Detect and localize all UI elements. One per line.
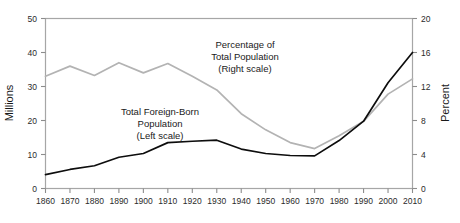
x-tick-label-1990: 1990 — [354, 196, 373, 206]
right-tick-label-8: 8 — [421, 116, 426, 126]
x-tick-label-1970: 1970 — [305, 196, 324, 206]
percentage-annotation-line-3: (Right scale) — [218, 63, 271, 74]
x-tick-label-1910: 1910 — [158, 196, 177, 206]
x-tick-label-1870: 1870 — [61, 196, 80, 206]
left-tick-label-30: 30 — [28, 82, 38, 92]
x-tick-label-2000: 2000 — [379, 196, 398, 206]
left-axis: 0 10 20 30 40 50 Millions — [3, 14, 46, 194]
foreign-born-annotation: Total Foreign-Born Population (Left scal… — [121, 106, 199, 141]
foreign-born-annotation-line-2: Population — [138, 118, 183, 129]
series-percentage-of-total-population — [46, 63, 413, 149]
right-tick-label-0: 0 — [421, 184, 426, 194]
x-tick-label-1960: 1960 — [281, 196, 300, 206]
left-tick-label-0: 0 — [32, 184, 37, 194]
x-tick-label-1920: 1920 — [183, 196, 202, 206]
right-tick-label-16: 16 — [421, 48, 431, 58]
chart-container: 0 10 20 30 40 50 Millions 0 4 8 12 16 20 — [0, 0, 460, 223]
foreign-born-annotation-line-1: Total Foreign-Born — [121, 106, 199, 117]
left-axis-title: Millions — [3, 84, 15, 121]
left-tick-label-40: 40 — [28, 48, 38, 58]
left-tick-label-50: 50 — [28, 14, 38, 24]
foreign-born-annotation-line-3: (Left scale) — [137, 130, 184, 141]
x-tick-label-1940: 1940 — [232, 196, 251, 206]
x-axis: 1860187018801890190019101920193019401950… — [36, 189, 422, 206]
x-tick-label-1930: 1930 — [207, 196, 226, 206]
percentage-annotation-line-1: Percentage of — [215, 39, 275, 50]
left-tick-label-10: 10 — [28, 150, 38, 160]
right-tick-label-4: 4 — [421, 150, 426, 160]
x-tick-label-1980: 1980 — [330, 196, 349, 206]
x-tick-label-1860: 1860 — [36, 196, 55, 206]
x-tick-label-1880: 1880 — [85, 196, 104, 206]
right-tick-label-20: 20 — [421, 14, 431, 24]
right-axis: 0 4 8 12 16 20 Percent — [413, 14, 452, 194]
left-axis-ticks — [41, 19, 46, 189]
left-tick-label-20: 20 — [28, 116, 38, 126]
right-axis-ticks — [413, 19, 418, 189]
x-tick-label-2010: 2010 — [403, 196, 422, 206]
x-tick-label-1950: 1950 — [256, 196, 275, 206]
x-tick-label-1890: 1890 — [109, 196, 128, 206]
right-tick-label-12: 12 — [421, 82, 431, 92]
percentage-annotation: Percentage of Total Population (Right sc… — [211, 39, 279, 74]
line-chart: 0 10 20 30 40 50 Millions 0 4 8 12 16 20 — [0, 0, 460, 223]
right-axis-title: Percent — [439, 84, 451, 122]
x-tick-label-1900: 1900 — [134, 196, 153, 206]
percentage-annotation-line-2: Total Population — [211, 51, 279, 62]
